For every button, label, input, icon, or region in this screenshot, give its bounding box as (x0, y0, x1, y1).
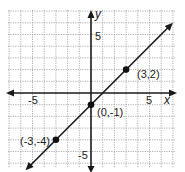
x-axis-right-arrow-icon (169, 90, 177, 97)
y-axis-label: y (94, 7, 102, 21)
y-axis-down-arrow-icon (88, 166, 95, 172)
y-axis-up-arrow-icon (88, 10, 95, 18)
point-label-neg3-neg4: (-3,-4) (20, 135, 50, 147)
coordinate-plane: x y -5 5 5 -5 (3,2) (0,-1) (-3,-4) (0, 0, 185, 172)
y-tick-label-5: 5 (95, 30, 101, 42)
data-point (123, 66, 130, 73)
data-point (88, 101, 95, 108)
data-point (53, 137, 60, 144)
point-label-0-neg1: (0,-1) (97, 106, 123, 118)
x-axis-left-arrow-icon (6, 90, 14, 97)
point-label-3-2: (3,2) (137, 68, 160, 80)
x-tick-label-neg5: -5 (28, 94, 38, 106)
y-tick-label-neg5: -5 (78, 149, 88, 161)
x-tick-label-5: 5 (146, 94, 152, 106)
x-axis-label: x (163, 93, 171, 107)
axes (6, 10, 177, 172)
